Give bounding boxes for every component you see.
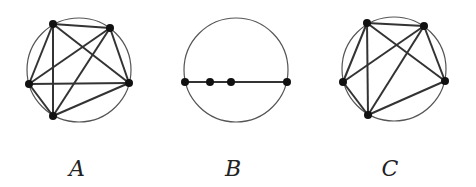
edge [367, 23, 368, 115]
vertex [283, 78, 291, 86]
edge [29, 84, 53, 116]
vertex [49, 20, 57, 28]
label-c: C [382, 156, 399, 181]
vertex [227, 78, 235, 86]
vertex [181, 78, 189, 86]
vertex [441, 77, 449, 85]
vertex [125, 79, 133, 87]
vertex [25, 80, 33, 88]
graph-b [181, 18, 291, 122]
vertex [206, 78, 214, 86]
edge [343, 82, 368, 115]
graph-a [25, 18, 133, 122]
vertex [49, 112, 57, 120]
bounding-circle [27, 18, 131, 122]
vertex [364, 111, 372, 119]
edge [53, 24, 110, 28]
label-b: B [225, 156, 241, 181]
bounding-circle [184, 18, 288, 122]
vertex [339, 78, 347, 86]
edge [53, 24, 129, 83]
vertex [363, 19, 371, 27]
graph-c [339, 17, 449, 121]
label-a: A [69, 156, 85, 181]
edge [29, 83, 129, 84]
vertex [106, 24, 114, 32]
vertex [420, 22, 428, 30]
edge [367, 23, 424, 26]
